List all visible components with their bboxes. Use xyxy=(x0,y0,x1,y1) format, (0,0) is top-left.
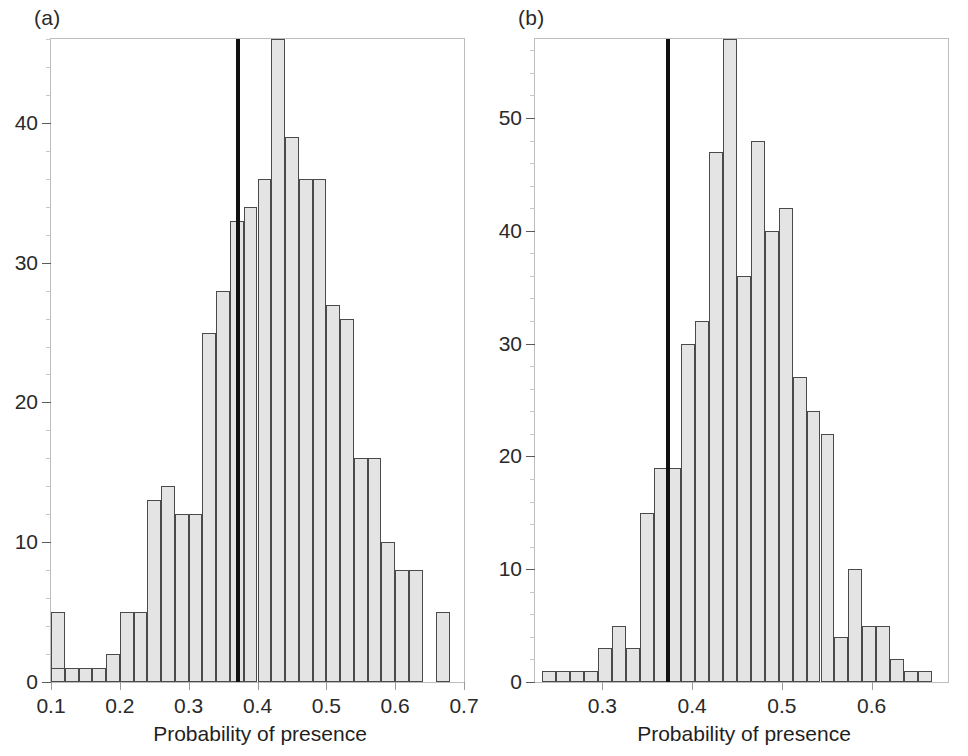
histogram-bar xyxy=(175,514,189,682)
histogram-bar xyxy=(409,570,423,682)
x-axis-tick-label: 0.1 xyxy=(36,694,65,718)
y-axis-minor-tick xyxy=(530,366,535,367)
x-axis-tick xyxy=(51,682,52,690)
y-axis-tick xyxy=(526,118,535,119)
x-axis-tick xyxy=(120,682,121,690)
x-axis-tick-label: 0.5 xyxy=(312,694,341,718)
y-axis-tick-label: 10 xyxy=(499,557,522,581)
y-axis-minor-tick xyxy=(46,39,51,40)
y-axis-minor-tick xyxy=(46,235,51,236)
y-axis-minor-tick xyxy=(46,179,51,180)
y-axis-minor-tick xyxy=(530,524,535,525)
histogram-bar xyxy=(161,486,175,682)
histogram-bar xyxy=(876,626,890,682)
histogram-bar xyxy=(147,500,161,682)
histogram-bar xyxy=(258,179,272,682)
x-axis-tick-label: 0.5 xyxy=(767,694,796,718)
histogram-bar xyxy=(216,291,230,682)
panel-b-plot-area: 010203040500.30.40.50.6 xyxy=(535,39,948,682)
y-axis-minor-tick xyxy=(46,347,51,348)
x-axis-tick xyxy=(602,682,603,690)
y-axis-minor-tick xyxy=(46,207,51,208)
x-axis-tick xyxy=(326,682,327,690)
y-axis-minor-tick xyxy=(46,598,51,599)
panel-b-label: (b) xyxy=(518,6,545,30)
y-axis-minor-tick xyxy=(530,73,535,74)
histogram-bar xyxy=(890,659,904,682)
histogram-bar xyxy=(737,276,751,682)
y-axis-minor-tick xyxy=(46,626,51,627)
y-axis-minor-tick xyxy=(530,389,535,390)
histogram-bar xyxy=(612,626,626,682)
y-axis-minor-tick xyxy=(530,321,535,322)
histogram-bar xyxy=(709,152,723,682)
y-axis-tick-label: 30 xyxy=(15,251,38,275)
y-axis-tick xyxy=(526,344,535,345)
y-axis-tick xyxy=(526,682,535,683)
panel-b-plot-frame: 010203040500.30.40.50.6 xyxy=(534,38,949,683)
histogram-bar xyxy=(381,542,395,682)
x-axis-tick-label: 0.6 xyxy=(381,694,410,718)
x-axis-tick-label: 0.7 xyxy=(449,694,478,718)
y-axis-tick-label: 50 xyxy=(499,106,522,130)
histogram-bar xyxy=(368,458,382,682)
y-axis-minor-tick xyxy=(46,486,51,487)
histogram-bar xyxy=(584,671,598,682)
x-axis-tick-label: 0.2 xyxy=(105,694,134,718)
y-axis-minor-tick xyxy=(530,592,535,593)
x-axis-tick xyxy=(464,682,465,690)
x-axis-tick-label: 0.4 xyxy=(243,694,272,718)
y-axis-minor-tick xyxy=(46,374,51,375)
x-axis-tick-label: 0.4 xyxy=(678,694,707,718)
y-axis-minor-tick xyxy=(46,67,51,68)
histogram-bar xyxy=(918,671,932,682)
y-axis-minor-tick xyxy=(530,50,535,51)
y-axis-tick-label: 20 xyxy=(15,390,38,414)
histogram-bar xyxy=(807,411,821,682)
histogram-bar xyxy=(626,648,640,682)
x-axis-tick-label: 0.3 xyxy=(588,694,617,718)
histogram-bar xyxy=(793,377,807,682)
histogram-bar xyxy=(695,321,709,682)
panel-a-label: (a) xyxy=(34,6,61,30)
y-axis-minor-tick xyxy=(530,298,535,299)
histogram-bar xyxy=(299,179,313,682)
x-axis-tick-label: 0.6 xyxy=(857,694,886,718)
y-axis-minor-tick xyxy=(46,570,51,571)
histogram-bar xyxy=(681,344,695,682)
histogram-bar xyxy=(723,39,737,682)
histogram-bar xyxy=(570,671,584,682)
y-axis-minor-tick xyxy=(530,186,535,187)
y-axis-tick-label: 0 xyxy=(510,670,522,694)
histogram-bar xyxy=(326,305,340,682)
y-axis-tick-label: 30 xyxy=(499,332,522,356)
histogram-bar xyxy=(271,39,285,682)
y-axis-minor-tick xyxy=(46,291,51,292)
figure-histogram-pair: (a) 0102030400.10.20.30.40.50.60.7 Proba… xyxy=(0,0,968,756)
histogram-bar xyxy=(751,141,765,682)
histogram-bar xyxy=(313,179,327,682)
y-axis-minor-tick xyxy=(46,430,51,431)
y-axis-minor-tick xyxy=(530,163,535,164)
y-axis-minor-tick xyxy=(530,141,535,142)
y-axis-minor-tick xyxy=(530,659,535,660)
y-axis-minor-tick xyxy=(46,458,51,459)
y-axis-tick-label: 0 xyxy=(26,670,38,694)
y-axis-tick-label: 40 xyxy=(499,219,522,243)
y-axis-tick xyxy=(526,569,535,570)
panel-a-axis-title: Probability of presence xyxy=(0,722,484,746)
histogram-bar xyxy=(65,668,79,682)
y-axis-minor-tick xyxy=(530,479,535,480)
histogram-bar xyxy=(354,458,368,682)
y-axis-minor-tick xyxy=(46,654,51,655)
histogram-bar xyxy=(598,648,612,682)
y-axis-tick-label: 40 xyxy=(15,111,38,135)
histogram-bar xyxy=(862,626,876,682)
histogram-bar xyxy=(779,208,793,682)
y-axis-minor-tick xyxy=(530,253,535,254)
histogram-bar xyxy=(285,137,299,682)
y-axis-tick xyxy=(42,542,51,543)
y-axis-minor-tick xyxy=(530,614,535,615)
y-axis-minor-tick xyxy=(530,502,535,503)
y-axis-minor-tick xyxy=(530,434,535,435)
